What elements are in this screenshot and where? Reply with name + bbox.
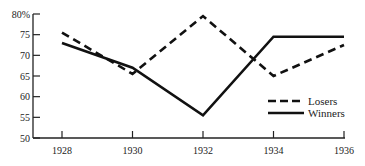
series-layer <box>62 16 344 115</box>
x-tick-label: 1932 <box>193 145 213 156</box>
y-tick-label: 60 <box>20 91 30 102</box>
x-tick-label: 1934 <box>264 145 284 156</box>
x-tick-label: 1936 <box>334 145 354 156</box>
legend-label-winners: Winners <box>308 107 345 119</box>
x-axis: 19281930193219341936 <box>33 131 354 156</box>
y-tick-label: 50 <box>20 133 30 144</box>
series-losers <box>62 16 344 76</box>
y-tick-label: 65 <box>20 71 30 82</box>
legend: LosersWinners <box>268 95 345 119</box>
legend-label-losers: Losers <box>308 95 337 107</box>
line-chart: 80%757065605550 19281930193219341936 Los… <box>0 0 365 166</box>
y-tick-label: 70 <box>20 50 30 61</box>
y-tick-label: 55 <box>20 112 30 123</box>
y-axis: 80%757065605550 <box>12 9 40 144</box>
series-winners <box>62 37 344 116</box>
y-tick-label: 80% <box>12 9 30 20</box>
x-tick-label: 1928 <box>52 145 72 156</box>
y-tick-label: 75 <box>20 29 30 40</box>
x-tick-label: 1930 <box>123 145 143 156</box>
